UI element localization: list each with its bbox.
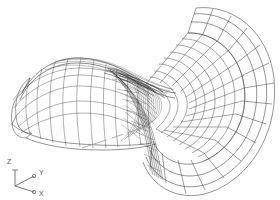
bell-flange-spokes xyxy=(150,8,274,194)
saddle-lower-rim xyxy=(12,124,156,150)
coordinate-axis-triad[interactable]: Z Y X xyxy=(7,158,44,197)
saddle-end-cap xyxy=(11,78,32,138)
wireframe-model: Z Y X xyxy=(0,0,280,200)
axis-z-label: Z xyxy=(7,158,12,165)
axis-y-label: Y xyxy=(39,169,44,176)
axis-y-line xyxy=(15,176,34,186)
axis-x-line xyxy=(15,186,34,192)
axis-x-label: X xyxy=(39,190,44,197)
model-viewport[interactable]: Z Y X xyxy=(0,0,280,200)
saddle-crest xyxy=(20,58,176,100)
